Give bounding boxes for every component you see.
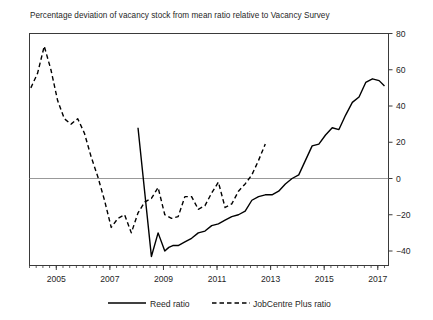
- svg-text:2011: 2011: [208, 274, 227, 284]
- svg-text:2005: 2005: [47, 274, 66, 284]
- svg-text:−40: −40: [396, 246, 411, 256]
- svg-text:2009: 2009: [154, 274, 173, 284]
- chart-plot-area: 2005200720092011201320152017 −40−2002040…: [0, 0, 433, 320]
- legend-label-jobcentre-plus: JobCentre Plus ratio: [253, 299, 331, 309]
- x-axis-ticks: [30, 266, 385, 271]
- svg-text:80: 80: [396, 29, 406, 39]
- y-axis-tick-labels: −40−20020406080: [396, 29, 411, 257]
- svg-text:2017: 2017: [368, 274, 387, 284]
- svg-text:−20: −20: [396, 210, 411, 220]
- plot-frame: [30, 34, 389, 266]
- svg-text:2007: 2007: [100, 274, 119, 284]
- chart-figure: Percentage deviation of vacancy stock fr…: [0, 0, 433, 320]
- x-axis-tick-labels: 2005200720092011201320152017: [47, 274, 388, 284]
- legend-label-reed: Reed ratio: [150, 299, 190, 309]
- svg-text:40: 40: [396, 101, 406, 111]
- svg-text:0: 0: [396, 174, 401, 184]
- svg-text:2015: 2015: [315, 274, 334, 284]
- y-axis-ticks: [389, 34, 393, 252]
- svg-text:20: 20: [396, 137, 406, 147]
- svg-text:60: 60: [396, 65, 406, 75]
- svg-text:2013: 2013: [261, 274, 280, 284]
- data-series: [31, 46, 385, 256]
